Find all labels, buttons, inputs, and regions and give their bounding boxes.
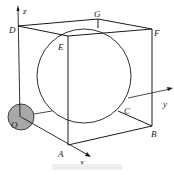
label-O: O xyxy=(11,120,18,130)
y-axis xyxy=(34,111,52,114)
cube-edges xyxy=(18,19,152,145)
label-y: y xyxy=(162,99,167,109)
z-axis xyxy=(18,8,20,117)
z-axis-arrow xyxy=(17,5,20,11)
y-axis-arrow xyxy=(167,87,173,91)
label-C: C xyxy=(124,106,131,116)
cube-sphere-diagram: z D G F E y C O B A x xyxy=(0,0,174,175)
y-axis-outer xyxy=(128,89,170,98)
figure-caption-faint xyxy=(52,164,122,170)
label-A: A xyxy=(57,149,64,159)
label-G: G xyxy=(94,9,101,19)
label-E: E xyxy=(57,42,64,52)
label-z: z xyxy=(22,6,27,16)
label-D: D xyxy=(8,25,16,35)
x-axis-arrow xyxy=(85,152,91,157)
label-B: B xyxy=(151,129,157,139)
inscribed-sphere xyxy=(37,29,131,123)
label-F: F xyxy=(153,28,160,38)
